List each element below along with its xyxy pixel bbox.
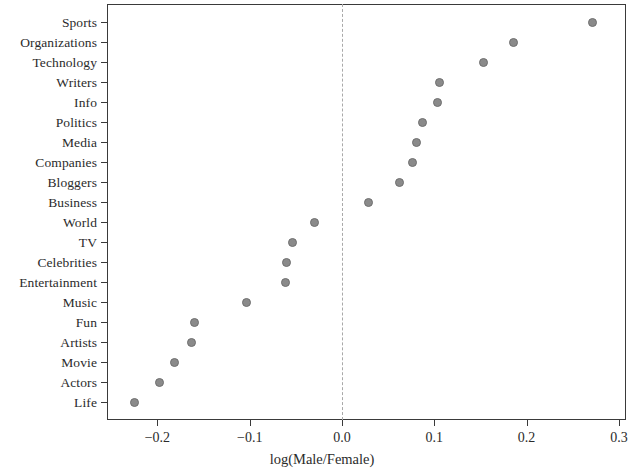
y-axis-tick-label-info: Info (74, 96, 97, 110)
y-axis-tick-mark (101, 342, 107, 343)
y-axis-tick-mark (101, 242, 107, 243)
y-axis-tick-mark (101, 202, 107, 203)
x-axis-tick-label: 0.2 (487, 431, 567, 445)
x-axis-tick-mark (157, 420, 158, 426)
x-axis-tick-label: −0.2 (117, 431, 197, 445)
data-point-fun (190, 318, 199, 327)
y-axis-tick-label-bloggers: Bloggers (47, 176, 97, 190)
y-axis-tick-mark (101, 142, 107, 143)
data-point-bloggers (395, 178, 404, 187)
data-point-movie (170, 358, 179, 367)
y-axis-tick-label-politics: Politics (56, 116, 97, 130)
y-axis-tick-mark (101, 302, 107, 303)
y-axis-tick-mark (101, 382, 107, 383)
y-axis-tick-label-world: World (63, 216, 97, 230)
data-point-organizations (509, 38, 518, 47)
y-axis-tick-label-business: Business (48, 196, 97, 210)
y-axis-tick-label-music: Music (63, 296, 97, 310)
y-axis-tick-label-sports: Sports (62, 16, 97, 30)
y-axis-tick-mark (101, 402, 107, 403)
y-axis-tick-mark (101, 22, 107, 23)
data-point-life (130, 398, 139, 407)
x-axis-tick-label: −0.1 (210, 431, 290, 445)
scatter-chart-figure: SportsOrganizationsTechnologyWritersInfo… (0, 0, 644, 470)
y-axis-tick-label-organizations: Organizations (20, 36, 97, 50)
data-point-technology (479, 58, 488, 67)
x-axis-tick-mark (434, 420, 435, 426)
y-axis-tick-mark (101, 162, 107, 163)
data-point-actors (155, 378, 164, 387)
data-point-sports (588, 18, 597, 27)
data-point-writers (435, 78, 444, 87)
y-axis-tick-label-media: Media (62, 136, 97, 150)
x-axis-tick-label: 0.1 (394, 431, 474, 445)
y-axis-tick-mark (101, 282, 107, 283)
y-axis-tick-label-actors: Actors (60, 376, 97, 390)
y-axis-tick-label-writers: Writers (56, 76, 97, 90)
y-axis-tick-mark (101, 222, 107, 223)
y-axis-tick-mark (101, 82, 107, 83)
data-point-world (310, 218, 319, 227)
x-axis-tick-label: 0.3 (579, 431, 644, 445)
y-axis-tick-mark (101, 102, 107, 103)
y-axis-tick-label-tv: TV (79, 236, 97, 250)
data-point-companies (408, 158, 417, 167)
y-axis-tick-mark (101, 182, 107, 183)
y-axis-tick-label-life: Life (74, 396, 97, 410)
y-axis-tick-label-technology: Technology (32, 56, 97, 70)
y-axis-tick-label-artists: Artists (60, 336, 97, 350)
y-axis-tick-mark (101, 362, 107, 363)
y-axis-tick-mark (101, 62, 107, 63)
x-axis-title: log(Male/Female) (0, 452, 644, 467)
y-axis-tick-mark (101, 322, 107, 323)
x-axis-tick-label: 0.0 (302, 431, 382, 445)
data-point-artists (187, 338, 196, 347)
zero-reference-line (342, 4, 343, 420)
y-axis-tick-mark (101, 262, 107, 263)
data-point-tv (288, 238, 297, 247)
x-axis-tick-mark (527, 420, 528, 426)
y-axis-tick-label-entertainment: Entertainment (19, 276, 97, 290)
data-point-media (412, 138, 421, 147)
y-axis-tick-label-fun: Fun (76, 316, 97, 330)
y-axis-tick-label-movie: Movie (61, 356, 97, 370)
plot-area (107, 4, 626, 420)
x-axis-tick-mark (342, 420, 343, 426)
data-point-business (364, 198, 373, 207)
data-point-music (242, 298, 251, 307)
data-point-info (433, 98, 442, 107)
y-axis-tick-mark (101, 42, 107, 43)
y-axis-tick-label-companies: Companies (35, 156, 97, 170)
y-axis-tick-mark (101, 122, 107, 123)
data-point-entertainment (281, 278, 290, 287)
y-axis-tick-label-celebrities: Celebrities (37, 256, 97, 270)
data-point-politics (418, 118, 427, 127)
x-axis-tick-mark (250, 420, 251, 426)
x-axis-tick-mark (619, 420, 620, 426)
data-point-celebrities (282, 258, 291, 267)
